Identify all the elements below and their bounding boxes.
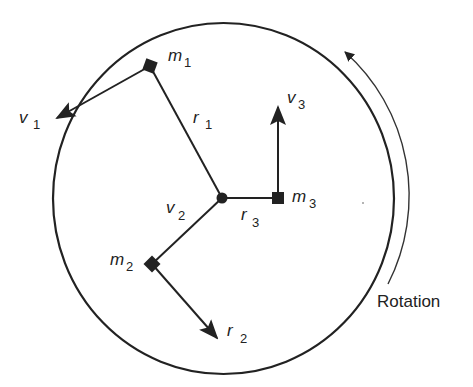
mass-m3-icon bbox=[272, 192, 284, 204]
label-r1: r 1 bbox=[193, 108, 212, 132]
label-r2: r 2 bbox=[227, 321, 247, 346]
svg-text:r: r bbox=[193, 108, 200, 127]
svg-text:m: m bbox=[168, 46, 182, 65]
svg-text:2: 2 bbox=[178, 208, 185, 223]
label-m3: m 3 bbox=[292, 187, 316, 211]
radius-r1-line bbox=[150, 66, 222, 198]
label-v2: v 2 bbox=[166, 198, 185, 223]
svg-text:r: r bbox=[227, 321, 234, 340]
pivot-point bbox=[217, 193, 228, 204]
svg-text:v: v bbox=[166, 198, 176, 217]
svg-text:3: 3 bbox=[298, 97, 305, 112]
svg-text:m: m bbox=[110, 250, 124, 269]
svg-text:2: 2 bbox=[126, 259, 133, 274]
label-m1: m 1 bbox=[168, 46, 191, 70]
diagram-canvas: m 1 v 1 r 1 v 3 m 3 r 3 v 2 m 2 r 2 Rota… bbox=[0, 0, 473, 387]
svg-text:m: m bbox=[292, 187, 306, 206]
svg-text:2: 2 bbox=[240, 331, 247, 346]
svg-text:1: 1 bbox=[205, 117, 212, 132]
svg-text:1: 1 bbox=[184, 55, 191, 70]
label-r3: r 3 bbox=[241, 205, 259, 230]
stray-dot bbox=[362, 202, 364, 204]
svg-text:r: r bbox=[241, 205, 248, 224]
svg-text:v: v bbox=[287, 88, 297, 107]
svg-text:v: v bbox=[19, 108, 29, 127]
svg-text:1: 1 bbox=[33, 117, 40, 132]
label-v1: v 1 bbox=[19, 108, 40, 132]
label-v3: v 3 bbox=[287, 88, 305, 112]
mass-m1-icon bbox=[142, 58, 157, 73]
svg-text:3: 3 bbox=[309, 196, 316, 211]
radius-r2-line bbox=[152, 198, 222, 264]
label-m2: m 2 bbox=[110, 250, 133, 274]
svg-text:3: 3 bbox=[252, 215, 259, 230]
velocity-r2-arrow-icon bbox=[152, 264, 217, 338]
rotation-label: Rotation bbox=[377, 292, 440, 311]
